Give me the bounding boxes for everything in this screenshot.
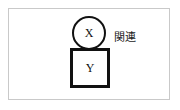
figure-root: X Y 関連	[0, 0, 180, 110]
node-circle-x[interactable]: X	[72, 16, 106, 50]
relation-annotation-label: 関連	[114, 31, 136, 44]
node-square-y[interactable]: Y	[70, 48, 110, 88]
node-square-y-label: Y	[86, 62, 95, 74]
node-circle-x-label: X	[85, 27, 94, 39]
